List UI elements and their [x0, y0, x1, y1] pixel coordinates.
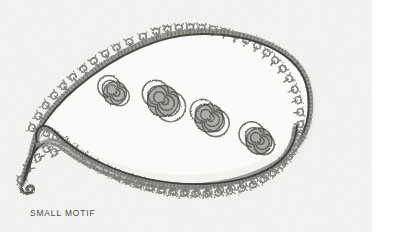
page-root: SMALL MOTIF [0, 0, 394, 248]
embroidery-photograph: SMALL MOTIF [0, 0, 372, 232]
caption-label: SMALL MOTIF [30, 208, 95, 219]
fabric-grain-overlay [0, 0, 372, 232]
paisley-motif-illustration [0, 0, 372, 232]
